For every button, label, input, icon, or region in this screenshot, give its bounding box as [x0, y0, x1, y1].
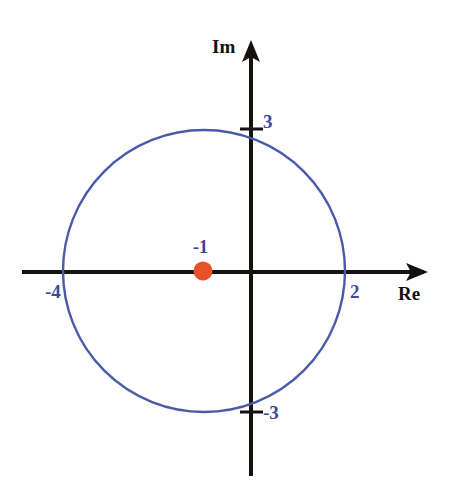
imaginary-axis-label: Im: [212, 36, 235, 57]
tick-label-im-positive-3: 3: [263, 111, 273, 132]
complex-plane-figure: Im Re 3 -3 -4 2 -1: [0, 0, 450, 498]
tick-label-im-negative-3: -3: [263, 402, 279, 423]
center-point-marker: [194, 262, 213, 281]
real-axis-label: Re: [398, 283, 420, 304]
tick-label-re-positive-2: 2: [350, 281, 360, 302]
center-point-label: -1: [193, 237, 208, 257]
complex-plane-svg: Im Re 3 -3 -4 2 -1: [0, 0, 450, 498]
tick-label-re-negative-4: -4: [45, 281, 61, 302]
